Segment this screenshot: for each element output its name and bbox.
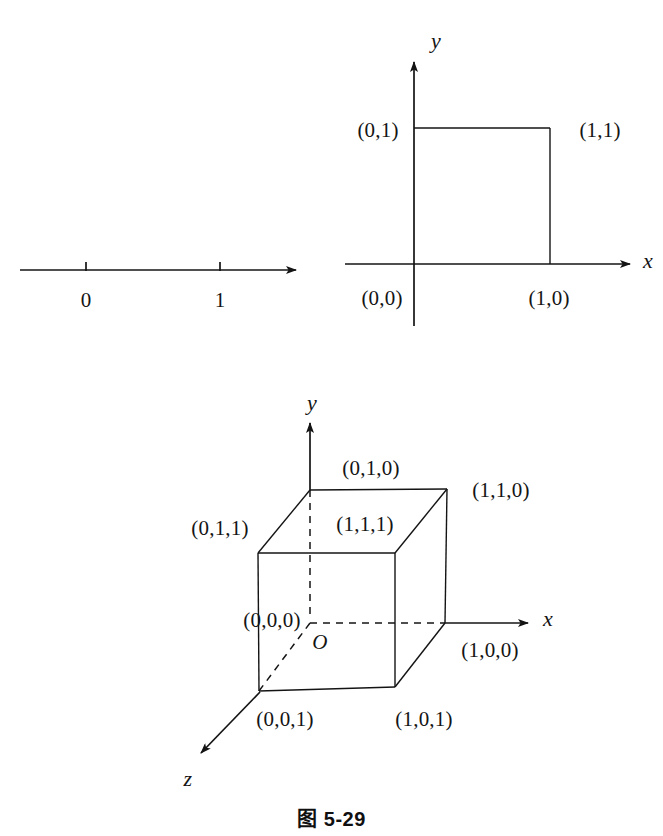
cube-y-axis-label: y: [307, 392, 317, 414]
cube-z-axis-label: z: [184, 768, 193, 790]
cube-edge-diag-top-left: [258, 490, 310, 553]
square-vertex-label-1-1: (1,1): [579, 120, 620, 141]
cube-edge-diag-top-right: [395, 489, 447, 553]
number-line-label-0: 0: [81, 290, 92, 311]
cube-hidden-edge-z: [259, 623, 310, 691]
cube-origin-label: O: [312, 632, 327, 653]
square-x-axis-label: x: [643, 250, 653, 272]
cube-vertex-label-0-0-0: (0,0,0): [243, 610, 300, 631]
square-vertex-label-0-1: (0,1): [357, 120, 398, 141]
cube-edge-front-bottom: [259, 687, 395, 691]
cube-vertex-label-1-1-1: (1,1,1): [336, 514, 393, 535]
cube-x-axis-label: x: [543, 608, 553, 630]
cube-vertex-label-1-0-0: (1,0,0): [461, 640, 518, 661]
figure-5-29: 0 1 y x (0,1) (1,1) (0,0) (1,0) y x z (0…: [0, 0, 663, 836]
square-vertex-label-0-0: (0,0): [361, 288, 402, 309]
cube-vertex-label-0-1-1: (0,1,1): [191, 518, 248, 539]
cube-edge-back-right: [445, 489, 447, 623]
square-y-axis-label: y: [431, 30, 441, 52]
cube-vertex-label-0-1-0: (0,1,0): [342, 458, 399, 479]
figure-vector-layer: [0, 0, 663, 836]
figure-caption: 图 5-29: [0, 803, 663, 832]
cube-vertex-label-0-0-1: (0,0,1): [256, 709, 313, 730]
cube-z-axis: [201, 692, 260, 753]
square-vertex-label-1-0: (1,0): [528, 288, 569, 309]
number-line-label-1: 1: [215, 290, 226, 311]
cube-edge-diag-bottom-right: [395, 623, 445, 687]
cube-vertex-label-1-0-1: (1,0,1): [395, 709, 452, 730]
number-line-panel: [20, 262, 296, 271]
cube-vertex-label-1-1-0: (1,1,0): [472, 480, 529, 501]
cube-edge-back-top: [310, 489, 447, 490]
